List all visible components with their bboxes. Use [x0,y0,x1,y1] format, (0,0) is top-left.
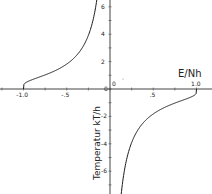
y-tick-label: 4 [101,30,105,37]
marker-dot [122,78,123,79]
x-axis-label: E/Nh [178,68,202,79]
axes [0,0,212,194]
x-tick-label: .5 [150,91,156,98]
x-tick-label: 1.0 [191,80,201,87]
chart-canvas [0,0,212,194]
y-tick-label: 0 [104,85,108,92]
x-tick-label: -1.0 [16,91,28,98]
y-tick-label: 6 [101,3,105,10]
curve-negative-branch [24,0,98,89]
curve-positive-branch [121,89,196,194]
x-tick-label: -.5 [61,91,69,98]
y-tick-label: 2 [101,58,105,65]
x-tick-label: 0 [112,80,116,87]
y-axis-label: Temperatur kT/h [92,106,102,180]
